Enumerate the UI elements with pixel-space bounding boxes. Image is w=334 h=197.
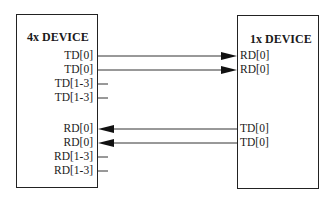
pin-label: TD[0]: [64, 63, 93, 76]
pin-label: RD[0]: [64, 122, 93, 135]
device-1x: 1x DEVICE: [237, 15, 319, 189]
pin-label: RD[0]: [240, 63, 269, 76]
pin-label: TD[1-3]: [55, 77, 93, 90]
pin-label: RD[1-3]: [54, 150, 93, 163]
connection-td0-to-rd0-3: [98, 125, 237, 133]
arrow-left-icon: [98, 125, 114, 133]
arrow-right-icon: [221, 52, 237, 60]
pin-label: TD[0]: [240, 136, 269, 149]
pin-label: TD[1-3]: [55, 91, 93, 104]
pin-label: RD[1-3]: [54, 164, 93, 177]
arrow-right-icon: [221, 66, 237, 74]
pin-label: TD[0]: [240, 122, 269, 135]
connection-td0-to-rd0-1: [98, 52, 237, 60]
pin-label: RD[0]: [240, 49, 269, 62]
device-title: 1x DEVICE: [250, 32, 312, 47]
pin-label: RD[0]: [64, 136, 93, 149]
pin-label: TD[0]: [64, 49, 93, 62]
connection-td0-to-rd0-2: [98, 66, 237, 74]
arrow-left-icon: [98, 139, 114, 147]
device-title: 4x DEVICE: [27, 30, 89, 45]
connection-td0-to-rd0-4: [98, 139, 237, 147]
